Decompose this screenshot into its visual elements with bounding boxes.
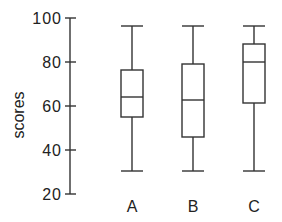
x-label-A: A bbox=[127, 198, 138, 215]
x-label-C: C bbox=[248, 198, 260, 215]
chart-canvas: 100 80 60 40 20 scores bbox=[0, 0, 282, 222]
box-B bbox=[182, 26, 204, 171]
x-label-B: B bbox=[188, 198, 199, 215]
y-tick-label-20: 20 bbox=[42, 186, 62, 203]
x-axis-labels: A B C bbox=[127, 198, 260, 215]
y-tick-label-40: 40 bbox=[42, 142, 62, 159]
box-plot-chart: 100 80 60 40 20 scores bbox=[0, 0, 282, 222]
box-C bbox=[243, 26, 265, 171]
box-A bbox=[121, 26, 143, 171]
y-axis-title: scores bbox=[10, 91, 27, 138]
y-tick-label-100: 100 bbox=[32, 10, 62, 27]
iqr-box-C bbox=[243, 44, 265, 103]
y-tick-label-80: 80 bbox=[42, 54, 62, 71]
y-axis: 100 80 60 40 20 scores bbox=[10, 10, 76, 203]
y-tick-label-60: 60 bbox=[42, 98, 62, 115]
iqr-box-A bbox=[121, 70, 143, 117]
